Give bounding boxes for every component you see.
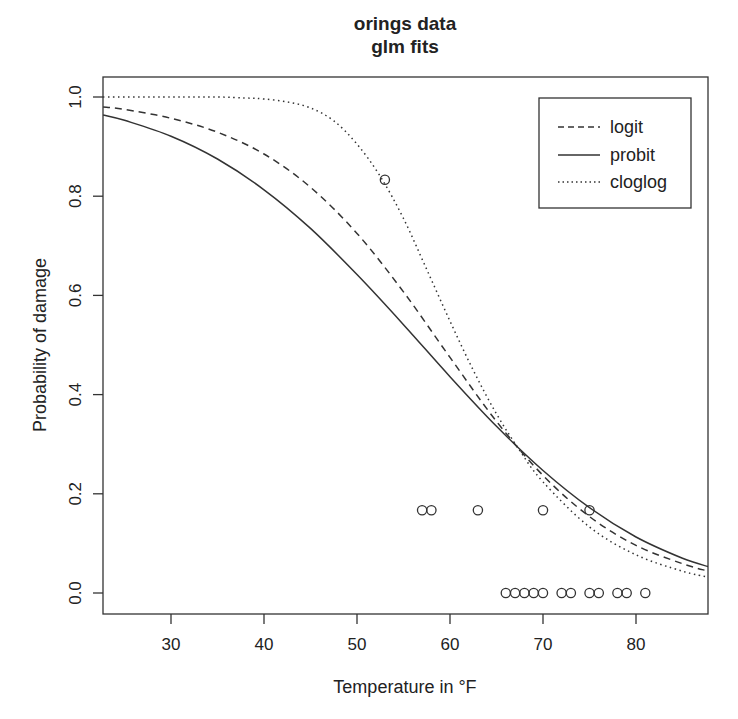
x-tick-label: 70 — [534, 635, 553, 654]
y-tick-label: 1.0 — [66, 85, 85, 109]
data-point — [641, 588, 650, 597]
legend-label-cloglog: cloglog — [610, 172, 667, 192]
x-tick-label: 50 — [348, 635, 367, 654]
legend-label-logit: logit — [610, 117, 643, 137]
data-point — [501, 588, 510, 597]
data-point — [566, 588, 575, 597]
legend-label-probit: probit — [610, 145, 655, 165]
y-axis-label: Probability of damage — [30, 258, 50, 432]
data-point — [538, 588, 547, 597]
data-point — [594, 588, 603, 597]
y-tick-label: 0.6 — [66, 284, 85, 308]
data-point — [622, 588, 631, 597]
x-axis: 304050607080 — [162, 614, 646, 654]
chart-subtitle: glm fits — [371, 36, 439, 57]
data-point — [538, 506, 547, 515]
y-axis: 0.00.20.40.60.81.0 — [66, 85, 103, 605]
x-tick-label: 80 — [627, 635, 646, 654]
data-point — [418, 506, 427, 515]
y-tick-label: 0.8 — [66, 184, 85, 208]
x-tick-label: 60 — [441, 635, 460, 654]
x-tick-label: 40 — [255, 635, 274, 654]
data-point — [520, 588, 529, 597]
chart-title: orings data — [354, 13, 457, 34]
data-point — [585, 588, 594, 597]
legend: logit probit cloglog — [539, 98, 691, 208]
chart: orings data glm fits 304050607080 0.00.2… — [0, 0, 738, 719]
data-point — [510, 588, 519, 597]
data-point — [557, 588, 566, 597]
data-point — [529, 588, 538, 597]
y-tick-label: 0.0 — [66, 581, 85, 605]
x-axis-label: Temperature in °F — [333, 677, 476, 697]
data-point — [473, 506, 482, 515]
x-tick-label: 30 — [162, 635, 181, 654]
data-point — [427, 506, 436, 515]
data-points — [380, 175, 650, 597]
y-tick-label: 0.4 — [66, 383, 85, 407]
data-point — [613, 588, 622, 597]
y-tick-label: 0.2 — [66, 482, 85, 506]
